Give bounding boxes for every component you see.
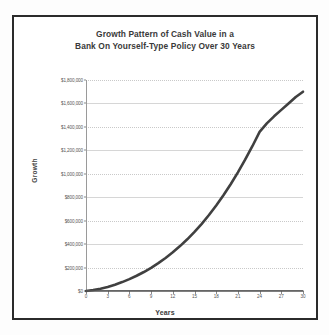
x-tick-label: 15	[192, 294, 197, 299]
chart-title-line-2: Bank On Yourself-Type Policy Over 30 Yea…	[14, 41, 316, 53]
x-tick-label: 21	[235, 294, 240, 299]
y-tick-label: $1,200,000	[61, 148, 83, 153]
y-tick-label: $1,800,000	[61, 78, 83, 83]
y-tick-label: $1,600,000	[61, 101, 83, 106]
x-tick-label: 18	[214, 294, 219, 299]
y-tick-label: $1,000,000	[61, 171, 83, 176]
x-tick-label: 3	[106, 294, 109, 299]
y-axis-label: Growth	[31, 141, 38, 201]
y-tick-label: $1,400,000	[61, 124, 83, 129]
x-tick-label: 9	[150, 294, 153, 299]
x-tick-label: 12	[170, 294, 175, 299]
y-tick-label: $600,000	[65, 218, 83, 223]
plot-area: $0$200,000$400,000$600,000$800,000$1,000…	[86, 80, 303, 291]
x-tick-label: 6	[128, 294, 131, 299]
chart-title-line-1: Growth Pattern of Cash Value in a	[14, 29, 316, 41]
chart-frame: Growth Pattern of Cash Value in a Bank O…	[12, 15, 318, 320]
x-tick-label: 27	[279, 294, 284, 299]
x-axis-label: Years	[14, 309, 316, 316]
y-tick-label: $800,000	[65, 195, 83, 200]
y-tick-label: $200,000	[65, 265, 83, 270]
x-tick-label: 0	[85, 294, 88, 299]
chart-figure: Growth Pattern of Cash Value in a Bank O…	[0, 0, 329, 335]
chart-title: Growth Pattern of Cash Value in a Bank O…	[14, 29, 316, 52]
x-tick-label: 30	[300, 294, 305, 299]
series-line	[86, 92, 303, 291]
y-tick-label: $400,000	[65, 242, 83, 247]
series-lines	[86, 80, 303, 291]
x-tick-label: 24	[257, 294, 262, 299]
y-tick-label: $0	[78, 289, 83, 294]
